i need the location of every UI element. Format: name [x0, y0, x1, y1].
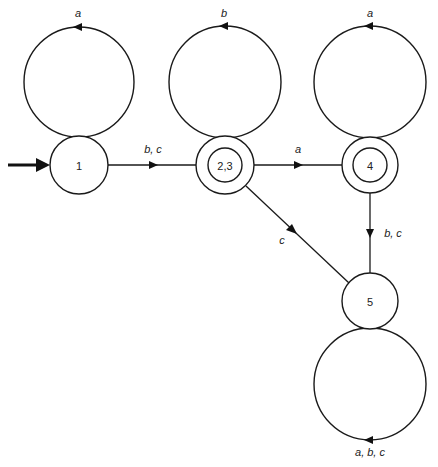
- edge-label-1-2-3: b, c: [144, 143, 162, 155]
- edge-2-3-to-4: a: [254, 143, 342, 169]
- state-label-5: 5: [367, 296, 373, 308]
- self-loop-4: a: [314, 7, 426, 138]
- loop-label-1: a: [75, 7, 81, 19]
- arrow-right-icon: [294, 161, 303, 169]
- state-label-4: 4: [367, 160, 373, 172]
- arrow-left-icon: [364, 436, 373, 444]
- state-5: 5: [342, 273, 398, 329]
- edge-label-2-3-4: a: [295, 143, 301, 155]
- state-1: 1: [50, 136, 108, 194]
- self-loop-5: a, b, c: [314, 328, 426, 458]
- self-loop-1: a: [24, 7, 134, 137]
- self-loop-2-3: b: [169, 7, 281, 138]
- edge-2-3-to-5: c: [246, 186, 349, 283]
- automaton-diagram: a b a a, b, c b, c a c b, c: [0, 0, 438, 467]
- loop-label-2-3: b: [221, 7, 227, 19]
- start-arrow: [8, 158, 50, 172]
- loop-label-5: a, b, c: [355, 446, 385, 458]
- arrow-left-icon: [219, 22, 228, 30]
- edge-label-4-5: b, c: [384, 227, 402, 239]
- edge-label-2-3-5: c: [279, 234, 285, 246]
- arrow-down-icon: [366, 229, 374, 238]
- arrow-right-icon: [149, 161, 158, 169]
- arrow-left-icon: [364, 22, 373, 30]
- state-2-3: 2,3: [196, 136, 254, 194]
- state-label-1: 1: [76, 160, 82, 172]
- state-label-2-3: 2,3: [217, 160, 232, 172]
- arrow-left-icon: [73, 23, 82, 31]
- edge-4-to-5: b, c: [366, 193, 402, 273]
- loop-label-4: a: [367, 7, 373, 19]
- state-4: 4: [342, 137, 398, 193]
- edge-1-to-2-3: b, c: [108, 143, 196, 169]
